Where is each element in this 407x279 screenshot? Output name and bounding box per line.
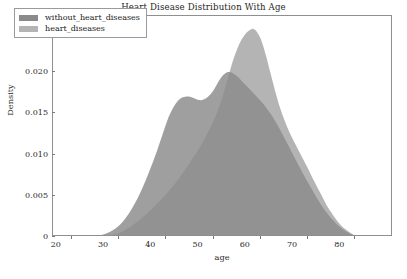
y-tick-mark — [52, 236, 55, 237]
density-curves — [53, 16, 392, 236]
x-tick-mark — [260, 236, 261, 239]
x-axis-label: age — [52, 252, 392, 262]
y-tick-mark — [52, 71, 55, 72]
legend-item: without_heart_diseases — [19, 12, 140, 23]
x-tick-label: 30 — [88, 240, 118, 249]
legend-label: without_heart_diseases — [45, 12, 140, 23]
y-axis-tick-labels: 00.0050.0100.0150.0200.025 — [4, 0, 48, 279]
y-tick-label: 0.020 — [25, 67, 48, 76]
x-tick-mark — [354, 236, 355, 239]
legend-swatch-heart-diseases — [19, 26, 38, 32]
x-tick-label: 60 — [230, 240, 260, 249]
x-tick-mark — [118, 236, 119, 239]
legend: without_heart_diseases heart_diseases — [14, 8, 147, 38]
legend-item: heart_diseases — [19, 23, 140, 34]
x-tick-mark — [307, 236, 308, 239]
y-tick-label: 0.010 — [25, 149, 48, 158]
legend-swatch-without-heart-diseases — [19, 15, 38, 21]
x-tick-label: 80 — [324, 240, 354, 249]
area-without-heart-diseases — [91, 72, 365, 236]
x-tick-label: 70 — [277, 240, 307, 249]
plot-area — [52, 15, 392, 236]
y-axis-label: Density — [5, 70, 15, 130]
y-tick-label: 0.015 — [25, 108, 48, 117]
x-tick-mark — [71, 236, 72, 239]
y-tick-mark — [52, 195, 55, 196]
density-chart-figure: Heart Disease Distribution With Age 00.0… — [0, 0, 407, 279]
y-tick-label: 0.005 — [25, 190, 48, 199]
x-tick-mark — [165, 236, 166, 239]
x-tick-label: 40 — [135, 240, 165, 249]
y-tick-mark — [52, 154, 55, 155]
legend-label: heart_diseases — [45, 23, 105, 34]
x-tick-label: 20 — [41, 240, 71, 249]
y-tick-mark — [52, 112, 55, 113]
x-tick-label: 50 — [183, 240, 213, 249]
x-tick-mark — [213, 236, 214, 239]
